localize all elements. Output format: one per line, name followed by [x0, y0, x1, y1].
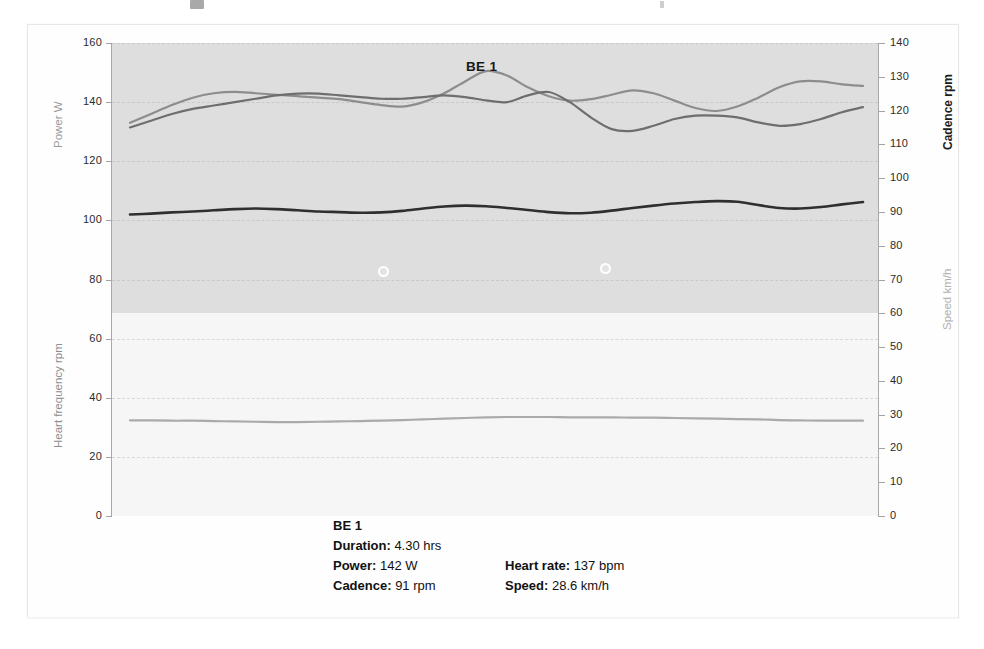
- axis-tick: [106, 339, 112, 340]
- axis-tick-label: 80: [890, 239, 930, 251]
- axis-tick-label: 80: [62, 273, 102, 285]
- summary-label: Speed:: [505, 578, 548, 593]
- axis-tick-label: 40: [62, 391, 102, 403]
- summary-label: Duration:: [333, 538, 391, 553]
- axis-tick-label: 140: [890, 36, 930, 48]
- chart-page: 020406080100120140160 010203040506070809…: [0, 0, 984, 649]
- summary-cell-secondary: Heart rate: 137 bpm: [505, 558, 725, 573]
- axis-tick: [879, 144, 885, 145]
- axis-tick: [879, 212, 885, 213]
- axis-tick-label: 100: [62, 213, 102, 225]
- summary-label: Heart rate:: [505, 558, 570, 573]
- axis-tick: [879, 482, 885, 483]
- summary-cell-secondary: Speed: 28.6 km/h: [505, 578, 725, 593]
- axis-tick: [106, 516, 112, 517]
- series-lines: [112, 43, 878, 516]
- summary-value: 4.30 hrs: [391, 538, 442, 553]
- axis-tick: [879, 280, 885, 281]
- axis-tick-label: 120: [890, 104, 930, 116]
- summary-block: BE 1 Duration: 4.30 hrsPower: 142 WHeart…: [333, 518, 725, 598]
- axis-tick-label: 140: [62, 95, 102, 107]
- axis-tick: [879, 347, 885, 348]
- axis-tick-label: 40: [890, 374, 930, 386]
- summary-cell-primary: Duration: 4.30 hrs: [333, 538, 505, 553]
- data-point-marker: [378, 266, 389, 277]
- summary-cell-primary: Cadence: 91 rpm: [333, 578, 505, 593]
- axis-tick: [879, 111, 885, 112]
- axis-tick: [879, 448, 885, 449]
- axis-title-speed: Speed km/h: [941, 269, 953, 330]
- summary-row: Duration: 4.30 hrs: [333, 538, 725, 558]
- axis-tick-label: 10: [890, 475, 930, 487]
- plot-area: [112, 43, 878, 516]
- axis-tick-label: 30: [890, 408, 930, 420]
- axis-title-cadence: Cadence rpm: [941, 74, 955, 150]
- axis-tick-label: 60: [890, 306, 930, 318]
- axis-tick-label: 20: [62, 450, 102, 462]
- axis-tick-label: 120: [62, 154, 102, 166]
- summary-label: Power:: [333, 558, 376, 573]
- axis-tick-label: 130: [890, 70, 930, 82]
- axis-tick: [879, 178, 885, 179]
- axis-tick: [106, 280, 112, 281]
- axis-tick: [106, 161, 112, 162]
- series-line-speed: [130, 417, 863, 422]
- axis-tick-label: 20: [890, 441, 930, 453]
- summary-value: 91 rpm: [392, 578, 436, 593]
- axis-tick-label: 160: [62, 36, 102, 48]
- axis-tick-label: 100: [890, 171, 930, 183]
- chart-title: BE 1: [466, 59, 497, 74]
- axis-tick-label: 0: [62, 509, 102, 521]
- page-edge-shadow: [27, 617, 957, 620]
- scan-artifact: [190, 0, 204, 9]
- axis-tick: [106, 398, 112, 399]
- axis-tick-label: 60: [62, 332, 102, 344]
- axis-tick: [879, 43, 885, 44]
- series-line-power: [130, 71, 863, 123]
- axis-tick-label: 50: [890, 340, 930, 352]
- axis-title-heart-frequency: Heart frequency rpm: [52, 343, 64, 448]
- axis-tick-label: 0: [890, 509, 930, 521]
- axis-tick: [879, 246, 885, 247]
- axis-tick: [879, 415, 885, 416]
- axis-tick: [106, 220, 112, 221]
- axis-tick: [879, 516, 885, 517]
- axis-tick-label: 90: [890, 205, 930, 217]
- summary-value: 137 bpm: [570, 558, 624, 573]
- series-line-cadence: [130, 92, 863, 131]
- summary-value: 142 W: [376, 558, 417, 573]
- series-line-heart-rate: [130, 201, 863, 214]
- axis-tick-label: 110: [890, 137, 930, 149]
- axis-title-power: Power W: [52, 101, 64, 148]
- summary-cell-primary: Power: 142 W: [333, 558, 505, 573]
- axis-tick-label: 70: [890, 273, 930, 285]
- summary-row: Cadence: 91 rpmSpeed: 28.6 km/h: [333, 578, 725, 598]
- axis-tick: [106, 102, 112, 103]
- axis-tick: [879, 381, 885, 382]
- data-point-marker: [600, 263, 611, 274]
- summary-rows: Duration: 4.30 hrsPower: 142 WHeart rate…: [333, 538, 725, 598]
- axis-tick: [879, 77, 885, 78]
- axis-tick: [879, 313, 885, 314]
- summary-row: Power: 142 WHeart rate: 137 bpm: [333, 558, 725, 578]
- summary-title: BE 1: [333, 518, 725, 538]
- summary-label: Cadence:: [333, 578, 392, 593]
- axis-tick: [106, 457, 112, 458]
- summary-value: 28.6 km/h: [548, 578, 609, 593]
- axis-tick: [106, 43, 112, 44]
- scan-artifact-secondary: [660, 1, 664, 8]
